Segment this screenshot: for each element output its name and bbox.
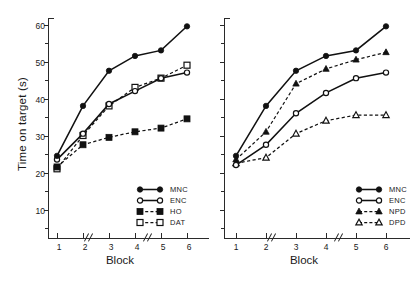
series-mnc — [54, 24, 189, 159]
legend-marker-start — [137, 187, 142, 192]
legend-label: DAT — [170, 218, 185, 227]
legend-marker-end — [157, 220, 163, 226]
legend-marker-end — [157, 198, 162, 203]
legend-marker-end — [157, 187, 162, 192]
data-point-mnc-block6 — [383, 24, 388, 29]
data-point-mnc-block3 — [106, 68, 111, 73]
legend-swatch-dpd — [355, 217, 385, 228]
data-point-npd-block2 — [263, 128, 269, 134]
series-line-npd — [236, 52, 386, 159]
data-point-mnc-block2 — [263, 103, 268, 108]
legend-swatch-dat — [136, 217, 166, 228]
legend-marker-start — [137, 209, 143, 215]
data-point-mnc-block2 — [80, 103, 85, 108]
legend-marker-end — [376, 219, 382, 225]
data-point-enc-block3 — [293, 111, 298, 116]
data-point-mnc-block6 — [184, 24, 189, 29]
data-point-enc-block6 — [184, 70, 189, 75]
right-panel: 1 2 3 4 5 6 Block MNCENCNPDDPD — [209, 0, 418, 281]
series-line-ho — [57, 119, 187, 167]
legend-label: HO — [170, 207, 182, 216]
legend-swatch-ho — [136, 206, 166, 217]
data-point-mnc-block5 — [353, 48, 358, 53]
legend-swatch-mnc — [136, 184, 166, 195]
data-point-ho-block5 — [158, 125, 164, 131]
legend-label: MNC — [389, 185, 407, 194]
series-enc — [233, 70, 388, 168]
left-panel-plot — [0, 0, 209, 281]
data-point-mnc-block1 — [233, 153, 238, 158]
legend-marker-start — [137, 198, 142, 203]
data-point-enc-block3 — [106, 101, 111, 106]
data-point-enc-block6 — [383, 70, 388, 75]
series-enc — [54, 70, 189, 162]
chart-figure: Time on target (s) 60 50 40 30 20 10 1 2… — [0, 0, 418, 281]
legend-marker-start — [356, 187, 361, 192]
right-panel-plot — [209, 0, 418, 281]
legend-label: ENC — [389, 196, 406, 205]
legend-marker-start — [356, 219, 362, 225]
legend-label: DPD — [389, 218, 406, 227]
data-point-ho-block2 — [80, 142, 86, 148]
data-point-npd-block3 — [293, 80, 299, 86]
legend-marker-start — [137, 220, 143, 226]
data-point-npd-block4 — [323, 66, 329, 72]
series-npd — [233, 49, 389, 162]
series-line-enc — [57, 73, 187, 160]
data-point-enc-block1 — [233, 163, 238, 168]
series-line-mnc — [57, 26, 187, 156]
legend-label: MNC — [170, 185, 188, 194]
legend-swatch-mnc — [355, 184, 385, 195]
series-mnc — [233, 24, 388, 159]
data-point-dpd-block4 — [323, 117, 329, 123]
data-point-ho-block1 — [54, 164, 60, 170]
data-point-mnc-block1 — [54, 153, 59, 158]
legend-label: ENC — [170, 196, 187, 205]
data-point-dpd-block5 — [353, 112, 359, 118]
data-point-dpd-block3 — [293, 130, 299, 136]
data-point-mnc-block3 — [293, 68, 298, 73]
legend-marker-start — [356, 198, 361, 203]
data-point-ho-block4 — [132, 129, 138, 135]
data-point-ho-block3 — [106, 134, 112, 140]
data-point-npd-block6 — [383, 49, 389, 55]
data-point-enc-block4 — [323, 90, 328, 95]
series-dpd — [233, 112, 389, 166]
legend-marker-end — [376, 198, 381, 203]
data-point-mnc-block5 — [158, 48, 163, 53]
left-panel: 60 50 40 30 20 10 1 2 3 4 5 6 Block MNCE… — [0, 0, 209, 281]
data-point-mnc-block4 — [323, 53, 328, 58]
legend-label: NPD — [389, 207, 406, 216]
data-point-enc-block2 — [263, 142, 268, 147]
data-point-enc-block2 — [80, 131, 85, 136]
data-point-dpd-block6 — [383, 112, 389, 118]
data-point-dat-block6 — [184, 62, 190, 68]
series-line-mnc — [236, 26, 386, 156]
data-point-enc-block5 — [353, 76, 358, 81]
data-point-mnc-block4 — [132, 53, 137, 58]
legend-swatch-enc — [355, 195, 385, 206]
legend-marker-end — [157, 209, 163, 215]
data-point-enc-block4 — [132, 89, 137, 94]
legend-swatch-enc — [136, 195, 166, 206]
legend-marker-end — [376, 187, 381, 192]
data-point-enc-block5 — [158, 76, 163, 81]
series-dat — [54, 62, 190, 172]
data-point-ho-block6 — [184, 116, 190, 122]
legend-swatch-npd — [355, 206, 385, 217]
